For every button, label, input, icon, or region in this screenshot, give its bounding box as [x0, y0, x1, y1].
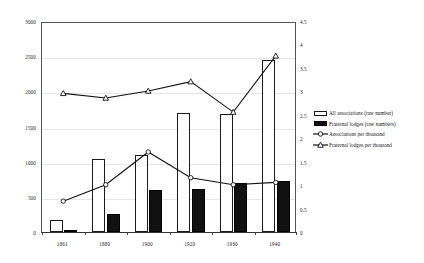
- bar-all-associations-1900: [135, 155, 148, 232]
- bar-all-associations-1880: [92, 159, 105, 232]
- left-axis-tick-2000: 2000: [6, 89, 36, 95]
- x-axis-tick-1930: 1930: [212, 241, 252, 247]
- right-axis-tick-4: 4: [300, 42, 324, 48]
- x-axis-tick-1940: 1940: [255, 241, 295, 247]
- x-axis-tick-1861: 1861: [42, 241, 82, 247]
- left-axis-tick-2500: 2500: [6, 54, 36, 60]
- left-axis-tick-1000: 1000: [6, 160, 36, 166]
- bar-all-associations-1930: [220, 114, 233, 232]
- legend-item: Fraternal lodges per thousand: [313, 140, 421, 150]
- left-axis-tick-0: 0: [6, 230, 36, 236]
- x-axis-tick-1880: 1880: [85, 241, 125, 247]
- bar-fraternal-lodges-1880: [107, 214, 120, 232]
- marker-triangle-1880: [103, 95, 109, 100]
- legend-triangle-marker-line: [313, 140, 328, 150]
- legend-marker-icon: [313, 140, 328, 150]
- x-tick-mark: [170, 232, 171, 235]
- gridline: [42, 93, 295, 94]
- legend-label: All associations (raw number): [328, 110, 393, 116]
- bar-fraternal-lodges-1920: [192, 189, 205, 232]
- left-axis-tick-500: 500: [6, 195, 36, 201]
- right-axis-tick-0: 0: [300, 230, 324, 236]
- line-triangle: [63, 56, 276, 112]
- bar-all-associations-1920: [177, 113, 190, 232]
- bar-all-associations-1861: [50, 220, 63, 232]
- bar-fraternal-lodges-1940: [277, 181, 290, 232]
- gridline: [42, 199, 295, 200]
- gridline: [42, 164, 295, 165]
- bar-fraternal-lodges-1900: [149, 190, 162, 232]
- x-axis-tick-1920: 1920: [170, 241, 210, 247]
- legend-label: Fraternal lodges (raw numbers): [328, 121, 396, 127]
- chart-figure: 050010001500200025003000 00.511.522.533.…: [0, 0, 424, 263]
- bar-fraternal-lodges-1930: [234, 183, 247, 232]
- gridline: [42, 129, 295, 130]
- right-axis-tick-1: 1: [300, 183, 324, 189]
- x-tick-mark: [127, 232, 128, 235]
- legend-label: Fraternal lodges per thousand: [328, 142, 392, 148]
- legend-circle-marker-line: [313, 129, 328, 139]
- legend-item: All associations (raw number): [313, 108, 421, 118]
- right-axis-tick-3: 3: [300, 89, 324, 95]
- legend-swatch: [314, 111, 327, 116]
- gridline: [42, 58, 295, 59]
- right-axis-tick-1.5: 1.5: [300, 160, 324, 166]
- legend-label: Associations per thousand: [328, 131, 385, 137]
- left-axis-tick-1500: 1500: [6, 125, 36, 131]
- legend-black-swatch: [313, 119, 328, 129]
- plot-area: [41, 22, 296, 233]
- right-axis-tick-3.5: 3.5: [300, 66, 324, 72]
- x-tick-mark: [212, 232, 213, 235]
- x-axis-tick-1900: 1900: [127, 241, 167, 247]
- legend-white-swatch: [313, 108, 328, 118]
- left-axis-tick-3000: 3000: [6, 19, 36, 25]
- right-axis-tick-4.5: 4.5: [300, 19, 324, 25]
- chart-legend: All associations (raw number)Fraternal l…: [313, 108, 421, 150]
- x-tick-mark: [42, 232, 43, 235]
- x-tick-mark: [296, 232, 297, 235]
- bar-fraternal-lodges-1861: [64, 230, 77, 232]
- legend-marker-icon: [313, 129, 328, 139]
- x-tick-mark: [255, 232, 256, 235]
- marker-triangle-1920: [188, 79, 194, 84]
- right-axis-tick-0.5: 0.5: [300, 207, 324, 213]
- legend-item: Associations per thousand: [313, 129, 421, 139]
- legend-item: Fraternal lodges (raw numbers): [313, 119, 421, 129]
- marker-circle-1900: [146, 150, 150, 154]
- legend-swatch: [314, 121, 327, 126]
- bar-all-associations-1940: [262, 60, 275, 232]
- x-tick-mark: [85, 232, 86, 235]
